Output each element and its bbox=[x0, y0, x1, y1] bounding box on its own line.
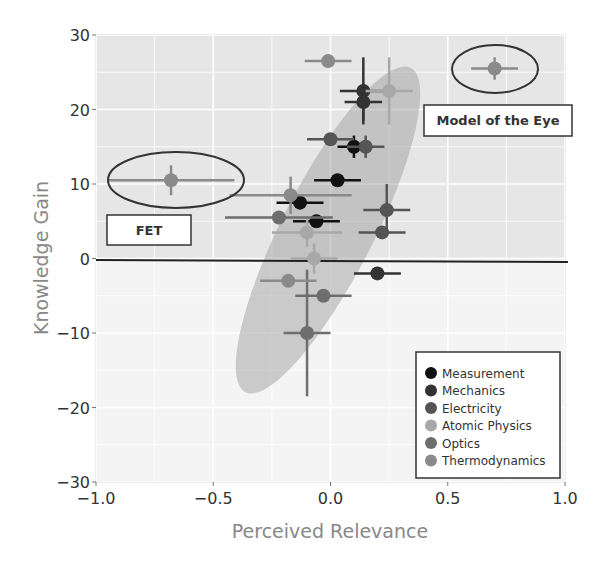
legend-label: Electricity bbox=[442, 402, 502, 416]
y-tick-label: −20 bbox=[56, 399, 90, 418]
legend-marker-icon bbox=[425, 420, 437, 432]
x-tick-label: −1.0 bbox=[77, 489, 116, 508]
legend-item: Atomic Physics bbox=[425, 419, 532, 433]
legend-marker-icon bbox=[425, 367, 437, 379]
scatter-chart: FET Model of the Eye MeasurementMechanic… bbox=[0, 0, 610, 570]
eye-label: Model of the Eye bbox=[436, 113, 559, 128]
y-tick-label: 30 bbox=[70, 26, 90, 45]
legend-label: Measurement bbox=[442, 367, 525, 381]
x-axis-title: Perceived Relevance bbox=[232, 520, 428, 542]
y-axis: 3020100−10−20−30 bbox=[56, 26, 96, 492]
legend-marker-icon bbox=[425, 455, 437, 467]
x-axis: −1.0−0.50.00.51.0 bbox=[77, 482, 578, 508]
legend-label: Optics bbox=[442, 437, 480, 451]
x-tick-label: 1.0 bbox=[552, 489, 577, 508]
y-tick-label: 10 bbox=[70, 175, 90, 194]
legend-label: Mechanics bbox=[442, 384, 505, 398]
legend-item: Optics bbox=[425, 437, 480, 451]
eye-label-box: Model of the Eye bbox=[424, 105, 572, 136]
legend-item: Thermodynamics bbox=[425, 454, 546, 468]
x-tick-label: 0.0 bbox=[318, 489, 343, 508]
x-tick-label: 0.5 bbox=[435, 489, 460, 508]
y-tick-label: 0 bbox=[80, 250, 90, 269]
legend: MeasurementMechanicsElectricityAtomic Ph… bbox=[416, 352, 560, 478]
legend-label: Atomic Physics bbox=[442, 419, 532, 433]
legend-marker-icon bbox=[425, 437, 437, 449]
y-tick-label: −10 bbox=[56, 324, 90, 343]
legend-marker-icon bbox=[425, 385, 437, 397]
fet-label-box: FET bbox=[107, 215, 191, 245]
fet-label: FET bbox=[136, 223, 163, 238]
y-axis-title: Knowledge Gain bbox=[30, 181, 52, 335]
x-tick-label: −0.5 bbox=[194, 489, 233, 508]
y-tick-label: 20 bbox=[70, 101, 90, 120]
legend-label: Thermodynamics bbox=[441, 454, 546, 468]
legend-marker-icon bbox=[425, 402, 437, 414]
